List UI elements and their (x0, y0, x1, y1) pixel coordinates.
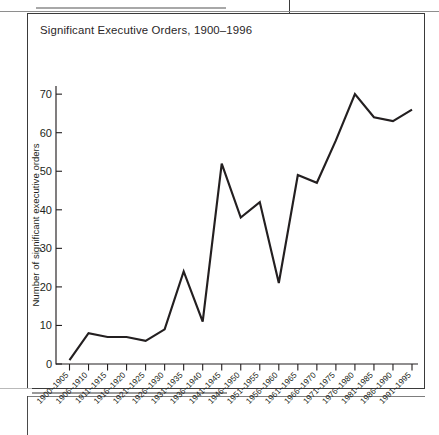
book-page: FIGURE 4.2 Significant Executive Orders,… (0, 0, 439, 435)
figure-number-underline (36, 7, 226, 9)
figure-frame: Significant Executive Orders, 1900–1996 (27, 13, 425, 389)
page-margin-vertical-rule (27, 396, 28, 435)
page-margin-rule (0, 388, 32, 389)
figure-caption: Significant Executive Orders, 1900–1996 (40, 24, 252, 36)
footer-rule-hairline (27, 396, 425, 397)
figure-head-hairline (0, 11, 439, 12)
footer-rule-thick (32, 392, 227, 394)
figure-number-label: FIGURE 4.2 (36, 0, 232, 7)
